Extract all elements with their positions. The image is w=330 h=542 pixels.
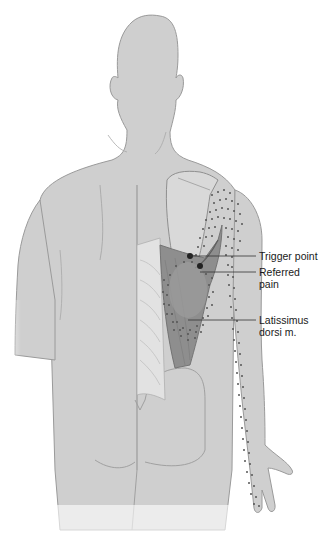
label-trigger-point: Trigger point bbox=[259, 250, 318, 262]
label-latissimus-dorsi: Latissimus dorsi m. bbox=[259, 314, 309, 338]
referred-pain-zone bbox=[169, 262, 207, 318]
trigger-point-2 bbox=[197, 263, 203, 269]
right-arm bbox=[233, 190, 293, 513]
label-referred-pain: Referred pain bbox=[259, 266, 300, 290]
